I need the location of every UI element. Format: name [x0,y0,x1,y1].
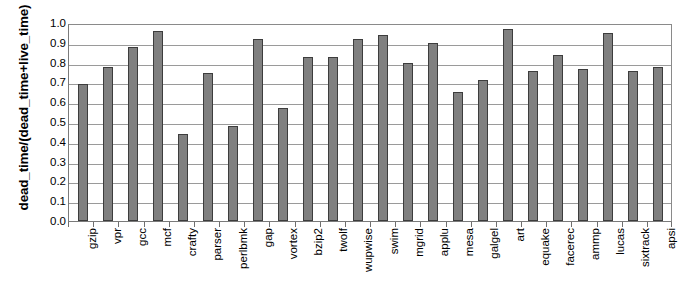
x-label-slot: gcc [118,228,143,298]
x-label-slot: bzip2 [295,228,320,298]
bar-slot [70,25,95,221]
plot-area [68,24,672,222]
x-tick-mark [420,222,445,227]
y-tick-label: 0.6 [36,97,66,108]
x-label-slot: art [496,228,521,298]
bar[interactable] [553,55,563,221]
bar[interactable] [628,71,638,221]
bar[interactable] [178,134,188,221]
bar-slot [370,25,395,221]
x-label-slot: twolf [320,228,345,298]
bar-slot [395,25,420,221]
bar[interactable] [453,92,463,221]
bar[interactable] [428,43,438,221]
x-tick-mark [597,222,622,227]
x-label-slot: applu [420,228,445,298]
bar-slot [595,25,620,221]
y-axis-title: dead_time/(dead_time+live_time) [16,3,31,213]
x-tick-mark [295,222,320,227]
bar-slot [120,25,145,221]
bar[interactable] [603,33,613,221]
x-label-slot: vpr [93,228,118,298]
x-tick-mark [144,222,169,227]
y-tick-label: 0.1 [36,196,66,207]
y-tick-label: 0.9 [36,38,66,49]
bar[interactable] [478,80,488,221]
x-tick-mark [546,222,571,227]
y-tick-label: 0.0 [36,216,66,227]
bar[interactable] [203,73,213,222]
bar-slot [170,25,195,221]
x-label-slot: lucas [597,228,622,298]
bar[interactable] [103,67,113,221]
x-label-slot: parser [194,228,219,298]
y-tick-label: 0.8 [36,58,66,69]
bar-slot [95,25,120,221]
x-tick-mark [68,222,93,227]
x-tick-mark [395,222,420,227]
x-tick-label: apsi [665,228,677,249]
bar-chart-figure: dead_time/(dead_time+live_time) 1.00.90.… [0,0,690,301]
x-tick-mark [320,222,345,227]
bar[interactable] [303,57,313,221]
x-tick-mark [169,222,194,227]
x-label-slot: mcf [144,228,169,298]
bar[interactable] [528,71,538,221]
y-tick-label: 1.0 [36,18,66,29]
x-label-slot: wupwise [345,228,370,298]
bar-slot [295,25,320,221]
bar-slot [620,25,645,221]
x-tick-mark [269,222,294,227]
x-tick-mark [219,222,244,227]
bar-slot [470,25,495,221]
bar[interactable] [153,31,163,221]
bar-slot [345,25,370,221]
x-label-slot: gap [244,228,269,298]
y-tick-label: 0.5 [36,117,66,128]
x-label-slot: apsi [647,228,672,298]
bar-slot [420,25,445,221]
bar-slot [220,25,245,221]
x-tick-mark [118,222,143,227]
x-tick-mark [496,222,521,227]
x-tick-mark [370,222,395,227]
x-label-slot: equake [521,228,546,298]
x-tick-mark [244,222,269,227]
bar[interactable] [128,47,138,221]
x-tick-mark [446,222,471,227]
y-tick-label: 0.7 [36,77,66,88]
x-tick-mark [194,222,219,227]
bar[interactable] [378,35,388,221]
bar[interactable] [78,84,88,221]
bar[interactable] [578,69,588,221]
y-tick-label: 0.3 [36,157,66,168]
x-tick-mark [345,222,370,227]
x-label-slot: gzip [68,228,93,298]
bar[interactable] [403,63,413,221]
x-tick-mark [622,222,647,227]
x-tick-mark [471,222,496,227]
x-label-slot: mgrid [395,228,420,298]
bar[interactable] [228,126,238,221]
x-label-slot: crafty [169,228,194,298]
bar-slot [270,25,295,221]
x-label-slot: mesa [446,228,471,298]
x-label-slot: perlbmk [219,228,244,298]
x-tick-mark [571,222,596,227]
bar[interactable] [653,67,663,221]
x-label-slot: ammp [571,228,596,298]
bar-slot [645,25,670,221]
bar-slot [545,25,570,221]
x-tick-mark [93,222,118,227]
bar[interactable] [353,39,363,221]
y-axis-title-container: dead_time/(dead_time+live_time) [0,0,30,240]
bar[interactable] [328,57,338,221]
bar[interactable] [253,39,263,221]
x-label-slot: vortex [269,228,294,298]
x-axis-tick-labels: gzipvprgccmcfcraftyparserperlbmkgapvorte… [68,228,672,298]
bar-slot [320,25,345,221]
bar[interactable] [278,108,288,221]
x-label-slot: swim [370,228,395,298]
bar[interactable] [503,29,513,221]
bar-slot [520,25,545,221]
